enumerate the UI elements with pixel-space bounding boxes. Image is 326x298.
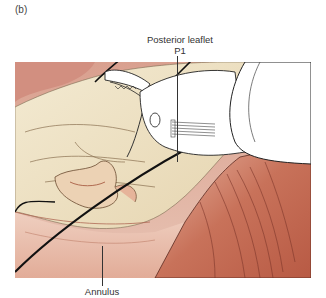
illustration-svg (15, 62, 311, 278)
panel-label: (b) (15, 4, 27, 15)
annulus-label: Annulus (82, 286, 122, 297)
annulus-leader-line (102, 246, 103, 286)
posterior-leaflet-text: Posterior leaflet (140, 34, 220, 45)
posterior-leaflet-label: Posterior leaflet P1 (140, 34, 220, 56)
mitral-valve-illustration (15, 62, 311, 278)
p1-leader-line (177, 56, 178, 162)
p1-text: P1 (140, 45, 220, 56)
